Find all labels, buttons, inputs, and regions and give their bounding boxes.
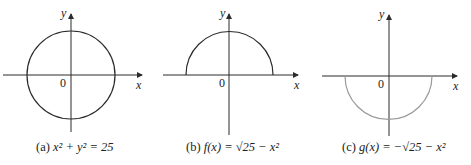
panel-b-caption-prefix: (b) [186,140,201,154]
panel-c-y-label: y [379,7,384,22]
panel-c-x-label: x [453,79,458,94]
panel-a-origin-label: 0 [60,76,66,91]
panel-c-caption-prefix: (c) [342,140,356,154]
panel-c-caption-equation: g(x) = −√25 − x² [359,140,446,154]
panel-a-caption: (a) x² + y² = 25 [36,140,113,155]
panel-a-y-label: y [61,6,66,21]
panel-b-caption: (b) f(x) = √25 − x² [186,140,279,155]
panel-b-graph [163,14,298,135]
panel-b-origin-label: 0 [219,76,225,91]
panel-c-graph [322,15,457,136]
panel-a-caption-prefix: (a) [36,140,50,154]
panel-a-x-label: x [136,78,141,93]
panel-b-y-label: y [220,6,225,21]
panel-a-caption-equation: x² + y² = 25 [53,140,113,154]
panel-a-graph [3,14,142,132]
panel-c-origin-label: 0 [378,77,384,92]
panel-b-x-label: x [294,78,299,93]
panel-b-caption-equation: f(x) = √25 − x² [204,140,279,154]
panel-c-caption: (c) g(x) = −√25 − x² [342,140,446,155]
